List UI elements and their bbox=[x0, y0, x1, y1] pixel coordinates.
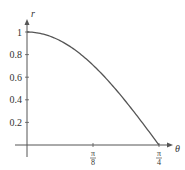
polar-curve-chart: r θ 0.20.40.60.81 π8π4 bbox=[0, 0, 185, 170]
x-tick-label-numerator: π bbox=[157, 149, 161, 158]
y-ticks: 0.20.40.60.81 bbox=[10, 27, 30, 128]
y-axis-label: r bbox=[31, 8, 35, 19]
curve-line bbox=[27, 32, 159, 145]
x-tick-label-denominator: 4 bbox=[157, 158, 161, 167]
x-axis-label: θ bbox=[175, 143, 180, 154]
x-tick-label-denominator: 8 bbox=[91, 158, 95, 167]
y-tick-label: 0.6 bbox=[10, 72, 23, 83]
y-tick-label: 0.2 bbox=[10, 117, 23, 128]
x-tick-label-numerator: π bbox=[91, 149, 95, 158]
y-tick-label: 0.8 bbox=[10, 49, 23, 60]
x-axis-arrow-icon bbox=[167, 143, 173, 148]
x-ticks: π8π4 bbox=[90, 143, 162, 167]
y-tick-label: 0.4 bbox=[10, 94, 23, 105]
y-axis-arrow-icon bbox=[25, 19, 30, 25]
y-tick-label: 1 bbox=[17, 27, 22, 38]
